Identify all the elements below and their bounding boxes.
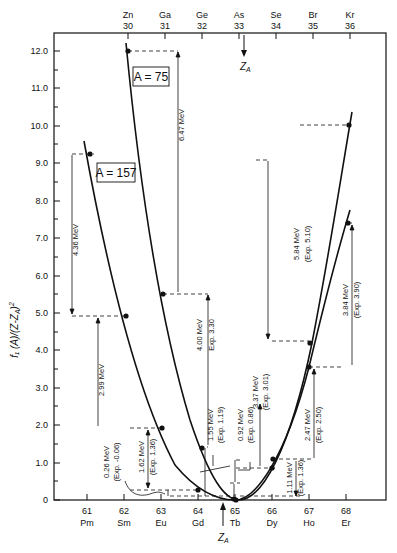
svg-text:8.0: 8.0 <box>35 196 48 206</box>
svg-text:1.0: 1.0 <box>35 458 48 468</box>
svg-text:7.0: 7.0 <box>35 233 48 243</box>
svg-text:63: 63 <box>156 506 166 516</box>
svg-text:5.0: 5.0 <box>35 308 48 318</box>
svg-text:(Exp. 1.36): (Exp. 1.36) <box>148 438 157 475</box>
svg-text:6.47 MeV: 6.47 MeV <box>177 109 186 141</box>
svg-text:(Exp. 5.10): (Exp. 5.10) <box>303 225 312 262</box>
svg-text:62: 62 <box>119 506 129 516</box>
svg-text:9.0: 9.0 <box>35 158 48 168</box>
svg-text:31: 31 <box>160 21 170 31</box>
svg-text:33: 33 <box>234 21 244 31</box>
svg-text:3.37 MeV: 3.37 MeV <box>251 376 260 408</box>
svg-text:Sm: Sm <box>117 518 131 528</box>
y-tick-labels: 0 1.0 2.0 3.0 4.0 5.0 6.0 7.0 8.0 9.0 10… <box>30 46 48 505</box>
svg-text:32: 32 <box>197 21 207 31</box>
y-axis <box>54 51 60 500</box>
svg-text:ZA: ZA <box>239 61 251 73</box>
svg-text:6.0: 6.0 <box>35 271 48 281</box>
svg-text:Pm: Pm <box>80 518 94 528</box>
series-a157-curve <box>84 141 350 500</box>
svg-text:64: 64 <box>193 506 203 516</box>
svg-text:Er: Er <box>342 518 351 528</box>
svg-text:34: 34 <box>271 21 281 31</box>
top-tick-labels: Zn30 Ga31 Ge32 As33 Se34 Br35 Kr36 <box>123 10 355 31</box>
svg-text:3.0: 3.0 <box>35 383 48 393</box>
legend-a75: A = 75 <box>133 67 169 86</box>
svg-text:2.47 MeV: 2.47 MeV <box>303 409 312 441</box>
svg-text:66: 66 <box>267 506 277 516</box>
bottom-za-arrow-icon: ZA <box>217 502 229 544</box>
svg-text:61: 61 <box>82 506 92 516</box>
svg-text:2.0: 2.0 <box>35 420 48 430</box>
svg-text:1.11 MeV: 1.11 MeV <box>285 462 294 494</box>
annotation-connector <box>125 481 165 495</box>
svg-text:1.62 MeV: 1.62 MeV <box>137 441 146 473</box>
svg-text:Ga: Ga <box>159 10 171 20</box>
svg-text:0.92 MeV: 0.92 MeV <box>236 409 245 441</box>
mass-parabola-chart: 0 1.0 2.0 3.0 4.0 5.0 6.0 7.0 8.0 9.0 10… <box>0 0 397 553</box>
top-za-arrow-icon: ZA <box>239 35 251 73</box>
svg-text:Zn: Zn <box>123 10 134 20</box>
svg-text:2.99 MeV: 2.99 MeV <box>97 364 106 396</box>
svg-text:36: 36 <box>345 21 355 31</box>
svg-text:Kr: Kr <box>346 10 355 20</box>
svg-text:Exp. 3.30: Exp. 3.30 <box>207 319 216 351</box>
svg-text:(Exp. 1.36): (Exp. 1.36) <box>296 459 305 496</box>
svg-text:(Exp. 3.90): (Exp. 3.90) <box>352 281 361 318</box>
svg-text:A = 157: A = 157 <box>95 166 136 180</box>
svg-text:4.36 MeV: 4.36 MeV <box>71 224 80 256</box>
svg-text:(Exp. 0.86): (Exp. 0.86) <box>246 406 255 443</box>
svg-text:Ge: Ge <box>196 10 208 20</box>
svg-text:As: As <box>234 10 245 20</box>
svg-text:1.55 MeV: 1.55 MeV <box>206 409 215 441</box>
svg-text:0: 0 <box>43 495 48 505</box>
svg-text:68: 68 <box>341 506 351 516</box>
svg-text:Dy: Dy <box>267 518 278 528</box>
svg-text:Br: Br <box>309 10 318 20</box>
svg-text:65: 65 <box>230 506 240 516</box>
series-a157-points <box>87 151 350 501</box>
svg-text:11.0: 11.0 <box>31 83 48 93</box>
svg-text:30: 30 <box>123 21 133 31</box>
svg-text:12.0: 12.0 <box>30 46 48 56</box>
svg-text:5.84 MeV: 5.84 MeV <box>292 228 301 260</box>
svg-text:(Exp. 3.01): (Exp. 3.01) <box>261 373 270 410</box>
svg-text:35: 35 <box>308 21 318 31</box>
svg-text:67: 67 <box>304 506 314 516</box>
top-axis <box>128 33 350 39</box>
svg-text:10.0: 10.0 <box>30 121 48 131</box>
legend-a157: A = 157 <box>95 163 136 182</box>
svg-text:(Exp. -0.06): (Exp. -0.06) <box>112 442 121 482</box>
svg-text:Tb: Tb <box>230 518 241 528</box>
bottom-tick-labels: 61Pm 62Sm 63Eu 64Gd 65Tb 66Dy 67Ho 68Er <box>80 506 351 528</box>
svg-text:(Exp. 1.19): (Exp. 1.19) <box>216 406 225 443</box>
svg-text:Se: Se <box>270 10 281 20</box>
svg-text:Eu: Eu <box>155 518 166 528</box>
svg-text:(Exp. 2.50): (Exp. 2.50) <box>314 406 323 443</box>
svg-text:Ho: Ho <box>303 518 315 528</box>
svg-text:4.0: 4.0 <box>35 345 48 355</box>
y-axis-title: f₁ (A)/(Z-ZA)2 <box>8 302 21 358</box>
svg-text:ZA: ZA <box>217 532 229 544</box>
svg-text:3.84 MeV: 3.84 MeV <box>341 284 350 316</box>
svg-text:A = 75: A = 75 <box>134 70 169 84</box>
svg-text:4.00 MeV: 4.00 MeV <box>195 319 204 351</box>
svg-text:0.26 MeV: 0.26 MeV <box>102 446 111 478</box>
svg-text:Gd: Gd <box>192 518 204 528</box>
